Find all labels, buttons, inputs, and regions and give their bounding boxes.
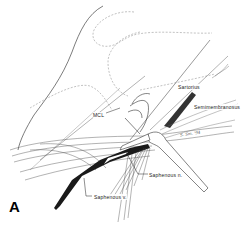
label-saphenous-vein: Saphenous v. (94, 194, 127, 200)
anatomical-illustration: Sartorius Semimembranosus MCL Saphenous … (0, 0, 252, 231)
semimembranosus-fibers (160, 64, 238, 138)
tibia-dashed-outline (108, 32, 140, 96)
label-semimembranosus: Semimembranosus (194, 104, 240, 110)
gracilis-line (150, 56, 228, 130)
femur-outline (18, 6, 103, 150)
joint-structure (125, 93, 150, 134)
label-sartorius: Sartorius (178, 84, 200, 90)
condyle-dashed-outline (93, 12, 212, 47)
leader-saphenous-vein (84, 178, 92, 196)
fascia-line-1 (40, 76, 145, 160)
sartorius-muscle-band (164, 92, 196, 128)
leader-mcl (106, 108, 120, 113)
saphenous-nerve (120, 132, 208, 192)
label-saphenous-nerve: Saphenous n. (149, 172, 182, 178)
panel-label: A (9, 199, 20, 215)
label-mcl: MCL (93, 112, 104, 118)
